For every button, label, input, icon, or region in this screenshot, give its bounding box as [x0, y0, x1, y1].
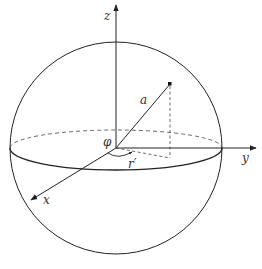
projection-radial-dashed [116, 148, 170, 158]
equator-front [10, 148, 222, 170]
phi-label: φ [103, 135, 112, 149]
phi-angle-arc [108, 152, 132, 156]
sphere-diagram: z y x a φ r′ [0, 0, 262, 269]
r-prime-label: r′ [128, 157, 137, 171]
point-marker [168, 82, 172, 86]
y-axis-label: y [241, 151, 249, 165]
x-axis-label: x [43, 193, 50, 207]
z-axis-label: z [103, 9, 111, 23]
radius-label: a [140, 93, 147, 107]
